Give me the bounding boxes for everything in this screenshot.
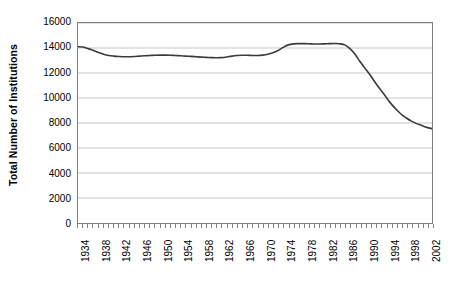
x-minor-tick: [319, 224, 320, 228]
x-tick-label: 1990: [370, 240, 380, 262]
x-minor-tick: [428, 224, 429, 228]
x-minor-tick: [304, 224, 305, 228]
x-minor-tick: [211, 224, 212, 228]
x-minor-tick: [340, 224, 341, 228]
x-minor-tick: [433, 224, 434, 228]
x-minor-tick: [221, 224, 222, 228]
x-minor-tick: [289, 224, 290, 228]
x-minor-tick: [283, 224, 284, 228]
x-minor-tick: [175, 224, 176, 228]
x-minor-tick: [237, 224, 238, 228]
y-axis-title-label: Total Number of Institutions: [7, 44, 19, 186]
x-minor-tick: [407, 224, 408, 228]
plot-area: [77, 22, 433, 224]
x-minor-tick: [294, 224, 295, 228]
x-minor-tick: [278, 224, 279, 228]
x-tick-label: 1950: [164, 240, 174, 262]
x-minor-tick: [242, 224, 243, 228]
x-minor-tick: [154, 224, 155, 228]
series-line-total-institutions: [78, 43, 432, 128]
x-minor-tick: [345, 224, 346, 228]
x-tick-label: 1994: [391, 240, 401, 262]
x-minor-tick: [397, 224, 398, 228]
x-minor-tick: [134, 224, 135, 228]
x-minor-tick: [247, 224, 248, 228]
y-tick-label: 12000: [43, 68, 71, 78]
x-minor-tick: [361, 224, 362, 228]
x-minor-tick: [402, 224, 403, 228]
y-tick-label: 0: [65, 219, 71, 229]
x-tick-label: 1938: [102, 240, 112, 262]
x-tick-label: 1958: [205, 240, 215, 262]
x-minor-tick: [325, 224, 326, 228]
x-minor-tick: [87, 224, 88, 228]
x-tick-label: 1970: [267, 240, 277, 262]
x-minor-tick: [232, 224, 233, 228]
x-tick-label: 1934: [81, 240, 91, 262]
x-tick-label: 1942: [122, 240, 132, 262]
x-tick-label: 1954: [184, 240, 194, 262]
x-minor-tick: [144, 224, 145, 228]
y-tick-label: 2000: [49, 194, 71, 204]
gridlines: [78, 23, 432, 198]
x-minor-tick: [185, 224, 186, 228]
chart-figure: Total Number of Institutions 02000400060…: [0, 0, 456, 282]
x-minor-tick: [98, 224, 99, 228]
x-minor-tick: [412, 224, 413, 228]
y-tick-label: 6000: [49, 143, 71, 153]
x-minor-tick: [423, 224, 424, 228]
x-minor-tick: [392, 224, 393, 228]
x-minor-tick: [299, 224, 300, 228]
x-minor-tick: [113, 224, 114, 228]
x-minor-tick: [103, 224, 104, 228]
x-minor-tick: [387, 224, 388, 228]
x-minor-tick: [309, 224, 310, 228]
y-axis-title: Total Number of Institutions: [0, 0, 26, 230]
x-minor-tick: [216, 224, 217, 228]
x-minor-tick: [170, 224, 171, 228]
x-minor-tick: [191, 224, 192, 228]
x-minor-tick: [258, 224, 259, 228]
x-minor-tick: [165, 224, 166, 228]
x-minor-tick: [118, 224, 119, 228]
x-minor-tick: [314, 224, 315, 228]
x-minor-tick: [371, 224, 372, 228]
y-tick-label: 10000: [43, 93, 71, 103]
x-minor-tick: [330, 224, 331, 228]
x-minor-tick: [268, 224, 269, 228]
x-minor-tick: [139, 224, 140, 228]
x-minor-tick: [77, 224, 78, 228]
x-minor-tick: [201, 224, 202, 228]
x-minor-tick: [129, 224, 130, 228]
x-tick-label: 1986: [349, 240, 359, 262]
x-tick-label: 1998: [411, 240, 421, 262]
x-minor-tick: [366, 224, 367, 228]
y-tick-label: 14000: [43, 42, 71, 52]
x-minor-tick: [376, 224, 377, 228]
x-minor-tick: [108, 224, 109, 228]
x-tick-label: 1974: [287, 240, 297, 262]
x-minor-tick: [381, 224, 382, 228]
x-minor-tick: [123, 224, 124, 228]
x-minor-tick: [180, 224, 181, 228]
x-minor-tick: [160, 224, 161, 228]
x-tick-label: 1982: [329, 240, 339, 262]
x-tick-label: 2002: [432, 240, 442, 262]
x-minor-tick: [149, 224, 150, 228]
x-minor-tick: [82, 224, 83, 228]
x-minor-tick: [273, 224, 274, 228]
x-minor-tick: [196, 224, 197, 228]
y-tick-label: 16000: [43, 17, 71, 27]
y-axis-tick-labels: 0200040006000800010000120001400016000: [26, 0, 74, 282]
x-tick-label: 1946: [143, 240, 153, 262]
x-minor-tick: [252, 224, 253, 228]
x-minor-tick: [350, 224, 351, 228]
x-axis-tick-labels: 1934193819421946195019541958196219661970…: [77, 224, 433, 282]
y-tick-label: 4000: [49, 169, 71, 179]
x-tick-label: 1962: [225, 240, 235, 262]
x-tick-label: 1978: [308, 240, 318, 262]
x-minor-tick: [356, 224, 357, 228]
y-tick-label: 8000: [49, 118, 71, 128]
data-series-line: [78, 43, 432, 128]
x-tick-label: 1966: [246, 240, 256, 262]
